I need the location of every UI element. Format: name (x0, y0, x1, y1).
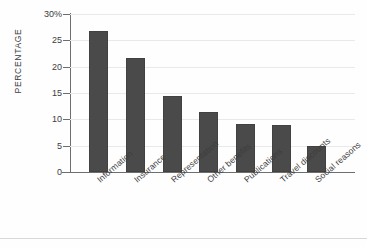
y-axis-tick-mark (63, 146, 70, 147)
y-axis-tick-labels: 30%2520151050 (0, 0, 62, 247)
y-axis-tick-label: 5 (6, 141, 62, 151)
bar (307, 146, 326, 172)
x-axis-line (62, 172, 355, 173)
bar (89, 31, 108, 172)
bar (126, 58, 145, 172)
y-axis-tick-mark (63, 14, 70, 15)
bar-chart-figure: PERCENTAGE 30%2520151050 InformationInsu… (0, 0, 367, 247)
y-axis-tick-label: 0 (6, 167, 62, 177)
gridline (70, 40, 355, 41)
bar (272, 125, 291, 172)
y-axis-tick-mark (63, 40, 70, 41)
gridline (70, 93, 355, 94)
y-axis-tick-mark (63, 93, 70, 94)
bar (199, 112, 218, 172)
gridline (70, 67, 355, 68)
plot-area (70, 14, 355, 172)
bar (163, 96, 182, 172)
y-axis-tick-mark (63, 172, 70, 173)
y-axis-tick-mark (63, 119, 70, 120)
y-axis-tick-label: 15 (6, 88, 62, 98)
y-axis-tick-label: 30% (6, 9, 62, 19)
y-axis-tick-mark (63, 67, 70, 68)
y-axis-tick-label: 10 (6, 114, 62, 124)
y-axis-tick-label: 25 (6, 35, 62, 45)
bottom-divider (0, 238, 367, 239)
y-axis-tick-label: 20 (6, 62, 62, 72)
gridline (70, 14, 355, 15)
bar (236, 124, 255, 172)
